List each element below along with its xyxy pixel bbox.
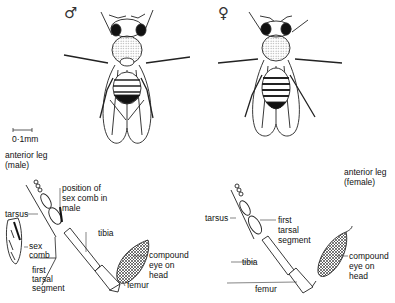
female-leg-subtitle: (female) — [344, 178, 375, 188]
male-symbol: ♂ — [64, 6, 77, 21]
scale-bar-label: 0·1mm — [12, 135, 38, 145]
male-leg-subtitle: (male) — [5, 161, 29, 171]
label-sex-comb-2: comb — [29, 251, 50, 261]
label-female-tibia: tibia — [242, 258, 258, 268]
diagram-canvas — [0, 0, 395, 303]
label-male-femur: femur — [127, 281, 149, 291]
label-female-femur: femur — [255, 285, 277, 295]
label-male-first-tarsal-3: segment — [32, 284, 65, 294]
label-female-first-tarsal-3: segment — [278, 236, 311, 246]
label-sex-comb-position-3: male — [62, 204, 80, 214]
label-male-compound-eye-3: head — [149, 271, 168, 281]
female-symbol: ♀ — [218, 6, 229, 21]
label-male-tarsus: tarsus — [5, 210, 28, 220]
scale-bar — [13, 128, 32, 132]
label-male-tibia: tibia — [98, 229, 114, 239]
female-fly-drawing — [218, 12, 342, 136]
male-fly-drawing — [64, 10, 190, 143]
label-female-tarsus: tarsus — [205, 214, 228, 224]
label-female-compound-eye-3: head — [349, 272, 368, 282]
